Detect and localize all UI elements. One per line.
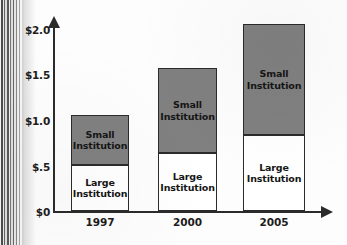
- bar-2000[interactable]: Small Institution Large Institution: [158, 68, 217, 211]
- y-axis-line: [53, 26, 55, 213]
- bar-segment-large-institution[interactable]: Large Institution: [71, 165, 129, 211]
- bar-segment-label: Small Institution: [160, 99, 215, 122]
- y-tick-label: $1.0: [2, 116, 50, 127]
- bar-segment-small-institution[interactable]: Small Institution: [158, 68, 217, 153]
- bar-segment-label: Large Institution: [160, 171, 215, 194]
- bar-1997[interactable]: Small Institution Large Institution: [71, 115, 129, 211]
- y-tick-label: $2.0: [2, 25, 50, 36]
- x-axis-arrow-icon: [321, 206, 333, 218]
- bar-segment-label: Large Institution: [247, 162, 302, 185]
- bar-segment-label: Small Institution: [247, 68, 302, 91]
- bar-segment-small-institution[interactable]: Small Institution: [71, 115, 129, 165]
- x-axis-line: [53, 211, 323, 213]
- y-tick-label: $1.5: [2, 70, 50, 81]
- bar-segment-large-institution[interactable]: Large Institution: [243, 135, 305, 211]
- bar-segment-label: Large Institution: [73, 177, 128, 200]
- y-tick-label: $.5: [2, 162, 50, 173]
- stacked-bar-chart: $2.0 $1.5 $1.0 $.5 $0 Small Institution …: [0, 0, 347, 245]
- bar-segment-label: Small Institution: [73, 129, 128, 152]
- bar-segment-small-institution[interactable]: Small Institution: [243, 24, 305, 135]
- x-tick-label-2000: 2000: [158, 216, 217, 228]
- y-axis-tick-labels: $2.0 $1.5 $1.0 $.5 $0: [0, 0, 50, 245]
- bar-2005[interactable]: Small Institution Large Institution: [243, 24, 305, 211]
- bar-segment-large-institution[interactable]: Large Institution: [158, 153, 217, 211]
- y-tick-label: $0: [2, 207, 50, 218]
- scanned-chart-page: $2.0 $1.5 $1.0 $.5 $0 Small Institution …: [0, 0, 347, 245]
- x-tick-label-2005: 2005: [243, 216, 305, 228]
- x-tick-label-1997: 1997: [71, 216, 129, 228]
